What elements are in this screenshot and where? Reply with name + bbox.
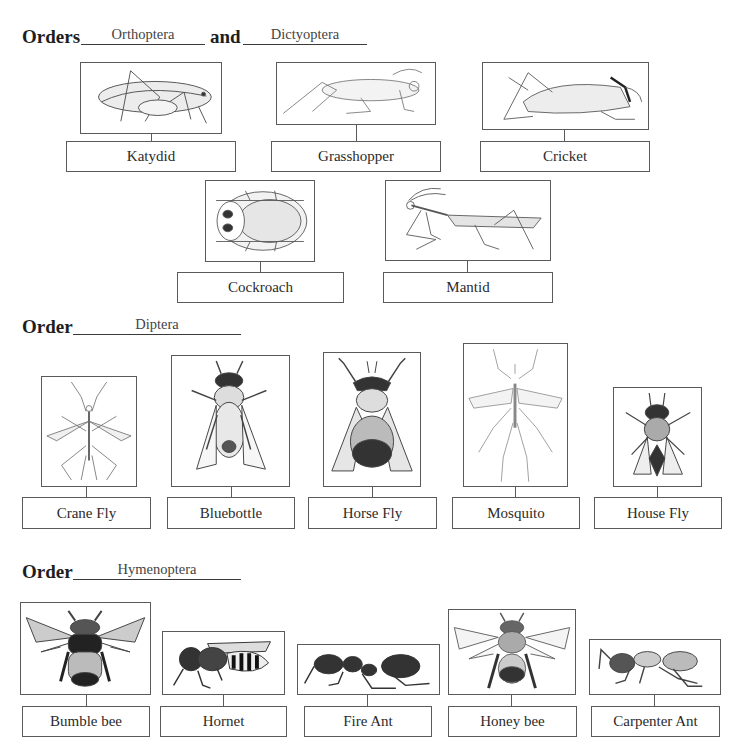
mosquito-illustration-icon	[463, 343, 568, 487]
insect-name: Crane Fly	[57, 505, 117, 522]
label-box-honey-bee: Honey bee	[448, 706, 577, 737]
insect-name: Mosquito	[487, 505, 545, 522]
insect-name: Cricket	[543, 148, 587, 165]
connector-line	[372, 487, 373, 497]
insect-name: Grasshopper	[318, 148, 394, 165]
label-box-mantid: Mantid	[383, 272, 553, 303]
insect-name: Carpenter Ant	[613, 713, 698, 730]
label-box-bumble-bee: Bumble bee	[22, 706, 150, 737]
insect-name: Katydid	[127, 148, 175, 165]
cricket-illustration-icon	[482, 62, 649, 130]
fire-ant-illustration-icon	[297, 644, 440, 695]
label-box-katydid: Katydid	[66, 141, 236, 172]
connector-line	[467, 261, 468, 272]
insect-name: Fire Ant	[343, 713, 393, 730]
insect-name: Cockroach	[228, 279, 293, 296]
label-box-carpenter-ant: Carpenter Ant	[591, 706, 720, 737]
connector-line	[223, 695, 224, 706]
label-box-fire-ant: Fire Ant	[304, 706, 432, 737]
label-box-cockroach: Cockroach	[177, 272, 344, 303]
order-answer-blank-1: Orthoptera	[81, 24, 205, 45]
horse-fly-illustration-icon	[323, 352, 421, 487]
honey-bee-illustration-icon	[448, 609, 576, 695]
connector-line	[654, 695, 655, 706]
connector-line	[367, 695, 368, 706]
order-answer-blank-1: Hymenoptera	[73, 559, 241, 580]
section-heading-label: Orders	[22, 26, 80, 48]
hornet-illustration-icon	[162, 631, 285, 695]
connector-line	[86, 487, 87, 497]
grasshopper-illustration-icon	[276, 62, 436, 125]
connector-line	[86, 695, 87, 706]
label-box-horse-fly: Horse Fly	[308, 497, 437, 529]
katydid-illustration-icon	[80, 62, 222, 134]
connector-line	[515, 487, 516, 497]
bumble-bee-illustration-icon	[20, 602, 151, 695]
section-heading-joiner: and	[210, 26, 241, 48]
label-box-crane-fly: Crane Fly	[22, 497, 151, 529]
insect-name: Mantid	[446, 279, 489, 296]
insect-name: House Fly	[627, 505, 689, 522]
order-answer-blank-2: Dictyoptera	[243, 24, 367, 45]
section-heading-label: Order	[22, 561, 73, 583]
label-box-cricket: Cricket	[480, 141, 650, 172]
section-heading-label: Order	[22, 316, 73, 338]
mantid-illustration-icon	[385, 180, 551, 261]
connector-line	[356, 125, 357, 141]
label-box-grasshopper: Grasshopper	[271, 141, 441, 172]
connector-line	[151, 134, 152, 141]
order-answer-blank-1: Diptera	[73, 314, 241, 335]
connector-line	[564, 130, 565, 141]
label-box-house-fly: House Fly	[594, 497, 722, 529]
insect-name: Bluebottle	[200, 505, 263, 522]
crane-fly-illustration-icon	[41, 376, 137, 487]
connector-line	[657, 487, 658, 497]
label-box-mosquito: Mosquito	[452, 497, 580, 529]
label-box-bluebottle: Bluebottle	[167, 497, 295, 529]
label-box-hornet: Hornet	[160, 706, 287, 737]
insect-name: Hornet	[203, 713, 245, 730]
connector-line	[231, 487, 232, 497]
carpenter-ant-illustration-icon	[589, 639, 721, 695]
connector-line	[260, 262, 261, 272]
insect-name: Bumble bee	[50, 713, 122, 730]
cockroach-illustration-icon	[205, 180, 315, 262]
insect-name: Horse Fly	[343, 505, 403, 522]
bluebottle-illustration-icon	[171, 355, 290, 487]
insect-name: Honey bee	[480, 713, 545, 730]
connector-line	[511, 695, 512, 706]
house-fly-illustration-icon	[613, 387, 702, 487]
